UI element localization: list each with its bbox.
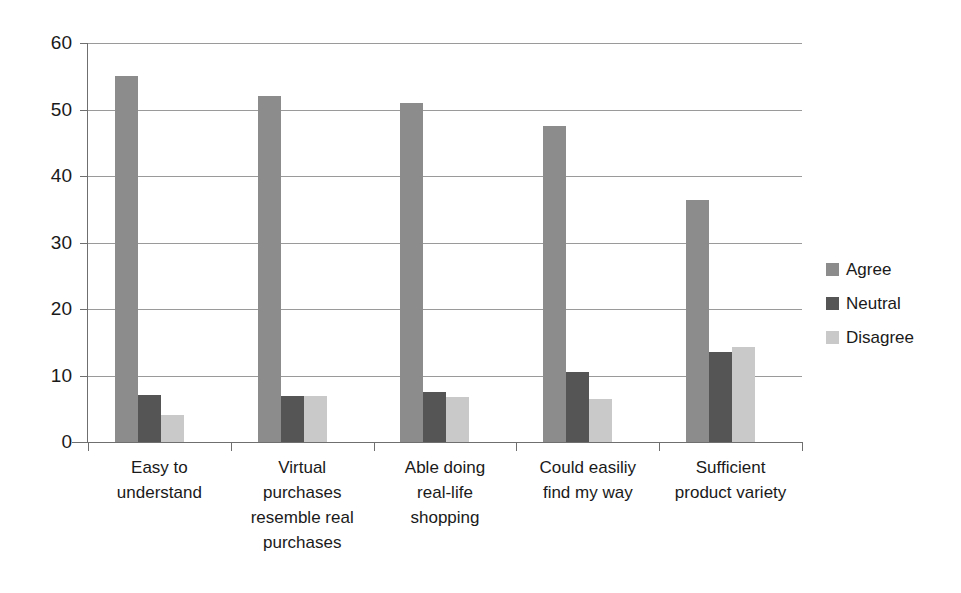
legend-item-agree[interactable]: Agree: [826, 252, 956, 286]
bar-agree: [400, 103, 423, 442]
bar-chart: 6050403020100 Easy tounderstandVirtualpu…: [0, 0, 961, 593]
y-axis-tick-label: 20: [28, 299, 72, 318]
bar-disagree: [589, 399, 612, 442]
x-axis-category-label: Able doingreal-lifeshopping: [362, 455, 529, 530]
bar-neutral: [566, 372, 589, 442]
bar-group: [516, 43, 659, 442]
x-axis-category-label: Virtualpurchasesresemble realpurchases: [219, 455, 386, 555]
x-axis-line: [72, 442, 803, 443]
x-axis-tick-mark: [516, 442, 517, 451]
y-axis: 6050403020100: [0, 0, 72, 593]
x-axis-tick-mark: [231, 442, 232, 451]
y-axis-tick-label: 0: [28, 432, 72, 451]
legend: AgreeNeutralDisagree: [826, 252, 956, 354]
legend-swatch-icon: [826, 331, 839, 344]
x-axis-tick-mark: [374, 442, 375, 451]
bar-neutral: [281, 396, 304, 442]
bar-disagree: [732, 347, 755, 442]
category-label-line: shopping: [362, 505, 529, 530]
bar-disagree: [446, 397, 469, 442]
x-axis-category-label: Easy tounderstand: [76, 455, 243, 505]
bar-neutral: [138, 395, 161, 442]
legend-item-neutral[interactable]: Neutral: [826, 286, 956, 320]
bar-agree: [258, 96, 281, 442]
category-label-line: Easy to: [76, 455, 243, 480]
category-label-line: purchases: [219, 530, 386, 555]
category-label-line: find my way: [504, 480, 671, 505]
bar-agree: [115, 76, 138, 442]
x-axis-category-label: Sufficientproduct variety: [647, 455, 814, 505]
y-axis-tick-label: 40: [28, 166, 72, 185]
category-label-line: purchases: [219, 480, 386, 505]
bar-agree: [543, 126, 566, 442]
category-label-line: real-life: [362, 480, 529, 505]
bar-neutral: [423, 392, 446, 442]
bar-neutral: [709, 352, 732, 442]
bar-agree: [686, 200, 709, 442]
x-axis-category-label: Could easiliyfind my way: [504, 455, 671, 505]
y-axis-tick-label: 30: [28, 233, 72, 252]
category-label-line: Could easiliy: [504, 455, 671, 480]
y-axis-tick-label: 10: [28, 366, 72, 385]
y-axis-tick-label: 60: [28, 33, 72, 52]
legend-swatch-icon: [826, 263, 839, 276]
category-label-line: Virtual: [219, 455, 386, 480]
x-axis-tick-mark: [88, 442, 89, 451]
legend-label: Agree: [846, 261, 891, 278]
x-axis-tick-mark: [802, 442, 803, 451]
legend-label: Disagree: [846, 329, 914, 346]
category-label-line: product variety: [647, 480, 814, 505]
legend-swatch-icon: [826, 297, 839, 310]
legend-label: Neutral: [846, 295, 901, 312]
category-label-line: Sufficient: [647, 455, 814, 480]
plot-area: [88, 43, 802, 442]
x-axis-tick-mark: [659, 442, 660, 451]
category-label-line: resemble real: [219, 505, 386, 530]
bar-group: [231, 43, 374, 442]
bar-group: [88, 43, 231, 442]
category-label-line: understand: [76, 480, 243, 505]
category-label-line: Able doing: [362, 455, 529, 480]
bar-disagree: [161, 415, 184, 442]
bar-disagree: [304, 396, 327, 442]
bar-group: [659, 43, 802, 442]
bar-group: [374, 43, 517, 442]
y-axis-tick-label: 50: [28, 100, 72, 119]
legend-item-disagree[interactable]: Disagree: [826, 320, 956, 354]
